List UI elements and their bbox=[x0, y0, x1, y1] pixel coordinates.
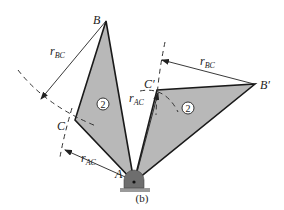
label-C-prime: C′ bbox=[144, 77, 155, 91]
rigid-body-rotation-diagram: 2 2 B C A C′ B′ rBC rAC rAC rBC (b) bbox=[0, 0, 284, 210]
label-C: C bbox=[57, 119, 66, 133]
pin-icon bbox=[132, 180, 135, 183]
label-A: A bbox=[114, 167, 123, 181]
label-rbc-left: rBC bbox=[50, 44, 66, 60]
svg-text:2: 2 bbox=[186, 103, 191, 114]
body-number-original: 2 bbox=[97, 98, 109, 110]
body-number-rotated: 2 bbox=[182, 102, 194, 114]
pin-support bbox=[124, 170, 144, 188]
body-2-rotated bbox=[134, 84, 255, 182]
label-B: B bbox=[93, 13, 101, 27]
svg-text:2: 2 bbox=[101, 99, 106, 110]
label-B-prime: B′ bbox=[260, 78, 270, 92]
figure-caption: (b) bbox=[136, 192, 149, 205]
label-rac-right: rAC bbox=[129, 91, 145, 107]
label-rac-left: rAC bbox=[81, 151, 97, 167]
label-rbc-right: rBC bbox=[200, 54, 216, 70]
